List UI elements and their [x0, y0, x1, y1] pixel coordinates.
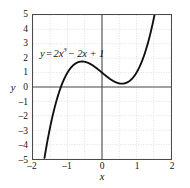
- x-tick-label: 0: [100, 161, 105, 171]
- y-tick-label: –4: [19, 140, 29, 150]
- x-axis-title: x: [100, 171, 105, 182]
- y-tick-label: 1: [23, 67, 28, 77]
- x-tick-label: –1: [62, 161, 72, 171]
- equation-term2: − 2x + 1: [68, 48, 104, 59]
- equation-exponent: 3: [63, 46, 66, 54]
- equation-term1: 2x: [54, 48, 64, 59]
- x-tick-label: 2: [170, 161, 175, 171]
- y-tick-label: 2: [23, 53, 28, 63]
- y-tick-label: 5: [23, 9, 28, 19]
- y-tick-label: –3: [19, 126, 29, 136]
- equation-annotation: y=2x3− 2x + 1: [40, 46, 104, 59]
- x-tick-label: –2: [27, 161, 37, 171]
- y-tick-label: 0: [23, 82, 28, 92]
- y-axis-title: y: [11, 82, 16, 93]
- y-tick-label: –1: [19, 97, 29, 107]
- plot-area: [32, 14, 172, 160]
- curve-cubic-polynomial: [33, 15, 171, 159]
- x-tick-label: 1: [135, 161, 140, 171]
- equation-equals: =: [46, 48, 53, 59]
- equation-lhs: y: [40, 48, 45, 59]
- chart-figure: 543210–1–2–3–4–5 y y=2x3− 2x + 1 –2–1012…: [0, 0, 190, 188]
- y-tick-label: 4: [23, 24, 28, 34]
- y-tick-label: –2: [19, 111, 29, 121]
- y-tick-label: 3: [23, 38, 28, 48]
